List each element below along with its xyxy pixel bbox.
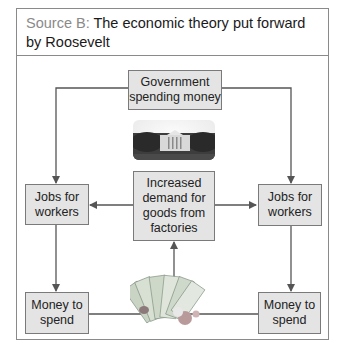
edge-government-jobs-right bbox=[222, 88, 291, 183]
node-money-to-spend-right: Money to spend bbox=[258, 292, 321, 334]
banknotes-image bbox=[130, 272, 210, 334]
white-house-image bbox=[133, 120, 215, 160]
node-government-spending: Government spending money bbox=[128, 70, 222, 110]
edge-government-jobs-left bbox=[56, 88, 128, 183]
node-jobs-for-workers-left: Jobs for workers bbox=[25, 184, 89, 225]
node-increased-demand: Increased demand for goods from factorie… bbox=[133, 171, 215, 241]
node-money-to-spend-left: Money to spend bbox=[25, 292, 89, 334]
node-jobs-for-workers-right: Jobs for workers bbox=[258, 184, 322, 226]
